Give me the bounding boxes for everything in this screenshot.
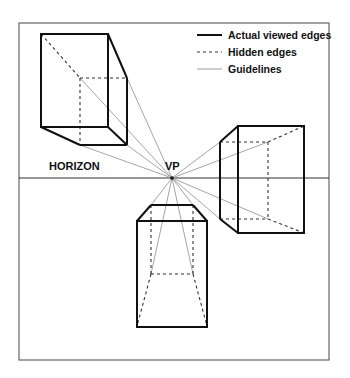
vanishing-point-dot	[170, 176, 174, 180]
diagram-frame	[19, 23, 329, 360]
legend-label-guidelines: Guidelines	[228, 63, 282, 75]
legend-label-hidden: Hidden edges	[228, 46, 297, 58]
legend: Actual viewed edges Hidden edges Guideli…	[197, 29, 331, 75]
vp-label: VP	[165, 160, 180, 172]
upper-left-box-front	[41, 34, 108, 127]
perspective-diagram: HORIZON VP Actual viewed edges Hidden ed…	[0, 0, 350, 378]
legend-label-actual: Actual viewed edges	[228, 29, 331, 41]
right-box-front	[238, 126, 304, 233]
horizon-label: HORIZON	[49, 160, 100, 172]
